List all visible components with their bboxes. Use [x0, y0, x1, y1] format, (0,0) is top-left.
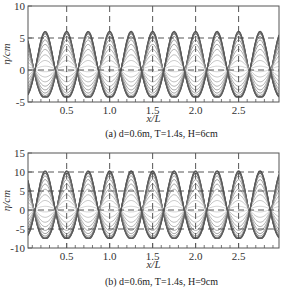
x-axis-label: x/L: [145, 258, 160, 270]
y-axis-label: η/cm: [0, 190, 12, 211]
y-tick-label: 10: [14, 166, 26, 178]
x-tick-label: 0.5: [60, 250, 74, 262]
x-tick-label: 1.0: [103, 250, 117, 262]
y-tick-label: 5: [20, 32, 26, 44]
wave-profiles: [28, 31, 279, 97]
y-tick-label: 0: [20, 64, 26, 76]
plot-frame: [28, 6, 279, 102]
figure-caption: (a) d=0.6m, T=1.4s, H=6cm: [105, 128, 218, 140]
y-tick-label: -5: [16, 96, 26, 108]
figure-caption: (b) d=0.6m, T=1.4s, H=9cm: [105, 276, 218, 288]
x-tick-label: 0.5: [60, 104, 74, 116]
figure: 0.51.01.52.02.5-50510x/Lη/cm(a) d=0.6m, …: [0, 0, 285, 298]
chart-panel-b: 0.51.01.52.02.5-10-5051015x/Lη/cm(b) d=0…: [0, 147, 279, 288]
x-tick-label: 2.0: [189, 104, 203, 116]
y-tick-label: -10: [10, 242, 25, 254]
chart-figure: 0.51.01.52.02.5-50510x/Lη/cm(a) d=0.6m, …: [0, 0, 285, 298]
x-tick-label: 2.5: [232, 250, 246, 262]
x-tick-label: 2.5: [232, 104, 246, 116]
y-tick-label: 5: [20, 185, 26, 197]
y-tick-label: 15: [14, 147, 26, 159]
y-tick-label: -5: [16, 223, 26, 235]
chart-panel-a: 0.51.01.52.02.5-50510x/Lη/cm(a) d=0.6m, …: [0, 0, 279, 140]
y-tick-label: 10: [14, 0, 26, 12]
y-tick-label: 0: [20, 204, 26, 216]
x-tick-label: 2.0: [189, 250, 203, 262]
wave-profiles: [28, 171, 279, 239]
x-axis-label: x/L: [145, 112, 160, 124]
y-axis-label: η/cm: [0, 43, 12, 64]
x-tick-label: 1.0: [103, 104, 117, 116]
